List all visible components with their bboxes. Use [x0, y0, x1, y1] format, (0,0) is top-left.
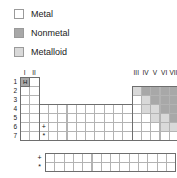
actinide-marker-main: *: [39, 132, 49, 140]
period-label-2: 2: [7, 87, 17, 95]
metal-swatch: [14, 9, 24, 19]
legend-item-metal: Metal: [14, 4, 134, 23]
lanthanide-marker-inner: +: [35, 154, 44, 162]
metalloid-swatch: [14, 47, 24, 57]
legend-item-nonmetal: Nonmetal: [14, 23, 134, 42]
hydrogen-symbol: H: [20, 78, 30, 86]
actinide-marker-inner: *: [35, 163, 44, 171]
periodic-table: HIIIIIIIVVVIVII01234567+*+*: [0, 62, 177, 178]
period-label-7: 7: [7, 132, 17, 140]
legend-label-metalloid: Metalloid: [31, 47, 67, 57]
legend-label-metal: Metal: [31, 9, 53, 19]
legend-label-nonmetal: Nonmetal: [31, 28, 70, 38]
period-label-6: 6: [7, 123, 17, 131]
nonmetal-swatch: [14, 28, 24, 38]
legend: Metal Nonmetal Metalloid: [14, 4, 134, 61]
group-label-VII: VII: [167, 69, 177, 76]
lanthanide-marker-main: +: [39, 123, 49, 131]
group-label-II: II: [28, 69, 39, 76]
inner-block-cell-r2-c14: [166, 162, 176, 172]
period-label-1: 1: [7, 78, 17, 86]
period-label-5: 5: [7, 114, 17, 122]
periodic-cell-g17-p7: [169, 131, 177, 141]
legend-item-metalloid: Metalloid: [14, 42, 134, 61]
period-label-3: 3: [7, 96, 17, 104]
period-label-4: 4: [7, 105, 17, 113]
